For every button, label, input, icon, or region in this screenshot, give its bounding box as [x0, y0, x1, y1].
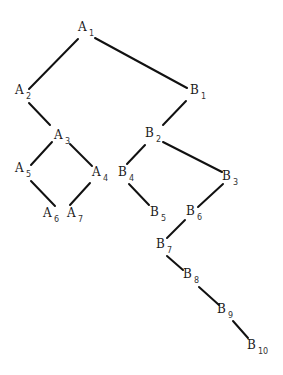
node-b10: B10: [247, 338, 268, 356]
edge-b8-b9: [199, 287, 219, 305]
node-b8: B8: [183, 267, 199, 285]
node-b9: B9: [217, 302, 233, 320]
node-subscript: 9: [228, 311, 233, 320]
node-subscript: 6: [54, 215, 59, 224]
edge-a4-a7: [70, 183, 90, 205]
node-letter: B: [145, 126, 154, 140]
node-letter: A: [42, 206, 52, 220]
node-subscript: 2: [26, 92, 31, 101]
node-letter: B: [186, 204, 195, 218]
node-letter: B: [156, 237, 165, 251]
node-a6: A6: [42, 206, 59, 224]
edge-b3-b6: [198, 184, 223, 207]
node-subscript: 5: [161, 214, 166, 223]
edge-b2-b4: [127, 145, 145, 164]
node-b5: B5: [150, 205, 166, 223]
edge-b2-b3: [163, 142, 222, 172]
edge-b7-b8: [167, 256, 183, 270]
node-b2: B2: [145, 126, 161, 144]
node-letter: B: [217, 302, 226, 316]
node-a1: A1: [77, 20, 94, 38]
node-letter: A: [91, 165, 101, 179]
node-letter: B: [222, 169, 231, 183]
node-subscript: 8: [194, 276, 199, 285]
node-letter: B: [118, 165, 127, 179]
node-letter: B: [247, 338, 256, 352]
node-a2: A2: [14, 83, 31, 101]
edge-b1-b2: [163, 101, 186, 125]
node-letter: B: [183, 267, 192, 281]
tree-diagram: A1A2A3A4A5A6A7B1B2B3B4B5B6B7B8B9B10: [0, 0, 283, 375]
node-letter: A: [53, 128, 63, 142]
node-a5: A5: [14, 161, 31, 179]
node-subscript: 5: [26, 170, 31, 179]
node-a3: A3: [53, 128, 70, 146]
edge-a1-b1: [95, 38, 187, 88]
edge-b6-b7: [167, 220, 185, 238]
node-letter: A: [14, 161, 24, 175]
node-subscript: 2: [156, 135, 161, 144]
node-a4: A4: [91, 165, 108, 183]
node-b7: B7: [156, 237, 172, 255]
node-subscript: 4: [103, 174, 108, 183]
node-subscript: 7: [78, 215, 83, 224]
node-subscript: 10: [258, 347, 268, 356]
node-letter: A: [14, 83, 24, 97]
node-letter: A: [77, 20, 87, 34]
edge-a1-a2: [29, 39, 78, 89]
node-subscript: 3: [233, 178, 238, 187]
node-subscript: 3: [65, 137, 70, 146]
node-subscript: 4: [129, 174, 134, 183]
node-subscript: 7: [167, 246, 172, 255]
edge-a2-a3: [29, 103, 50, 125]
node-b3: B3: [222, 169, 238, 187]
node-b1: B1: [190, 83, 206, 101]
node-subscript: 6: [197, 213, 202, 222]
edge-b9-b10: [233, 321, 248, 338]
node-b4: B4: [118, 165, 134, 183]
node-a7: A7: [66, 206, 83, 224]
node-subscript: 1: [89, 29, 94, 38]
node-letter: B: [150, 205, 159, 219]
edge-a3-a4: [70, 144, 92, 166]
edge-a3-a5: [31, 142, 52, 165]
nodes-group: A1A2A3A4A5A6A7B1B2B3B4B5B6B7B8B9B10: [14, 20, 268, 356]
node-subscript: 1: [201, 92, 206, 101]
node-letter: A: [66, 206, 76, 220]
node-letter: B: [190, 83, 199, 97]
edge-b4-b5: [129, 184, 149, 205]
edges-group: [29, 38, 248, 338]
edge-a5-a6: [31, 181, 55, 206]
